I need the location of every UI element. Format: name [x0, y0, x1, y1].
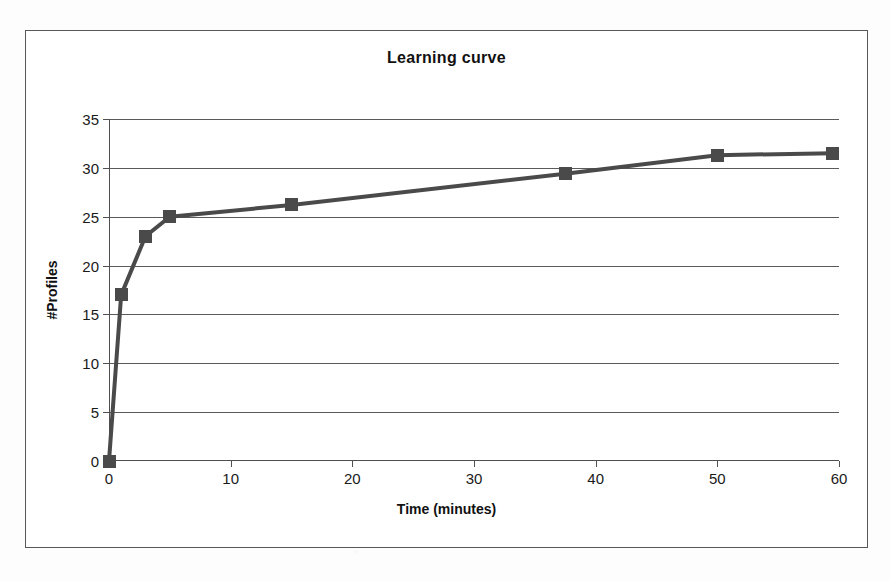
data-point-marker — [103, 455, 116, 468]
data-point-marker — [163, 210, 176, 223]
x-tick-label: 40 — [587, 470, 604, 487]
y-tick-label: 0 — [91, 453, 99, 470]
x-tick-mark — [717, 461, 718, 467]
y-tick-label: 20 — [82, 257, 99, 274]
page-root: Learning curve #Profiles Time (minutes) … — [0, 0, 890, 581]
chart-frame: Learning curve #Profiles Time (minutes) … — [25, 30, 868, 548]
x-tick-mark — [839, 461, 840, 467]
x-tick-label: 20 — [344, 470, 361, 487]
x-tick-mark — [596, 461, 597, 467]
data-point-marker — [711, 149, 724, 162]
y-tick-label: 5 — [91, 404, 99, 421]
x-tick-label: 60 — [831, 470, 848, 487]
y-tick-label: 35 — [82, 111, 99, 128]
chart-title: Learning curve — [26, 49, 867, 67]
x-tick-label: 10 — [222, 470, 239, 487]
data-point-marker — [139, 230, 152, 243]
series-line — [109, 119, 839, 461]
data-point-marker — [559, 167, 572, 180]
y-tick-label: 25 — [82, 208, 99, 225]
data-point-marker — [285, 198, 298, 211]
y-tick-label: 30 — [82, 159, 99, 176]
y-axis-label: #Profiles — [44, 260, 60, 319]
x-tick-mark — [352, 461, 353, 467]
x-tick-label: 50 — [709, 470, 726, 487]
data-point-marker — [115, 288, 128, 301]
x-tick-label: 0 — [105, 470, 113, 487]
x-tick-mark — [474, 461, 475, 467]
x-tick-label: 30 — [466, 470, 483, 487]
y-tick-label: 10 — [82, 355, 99, 372]
x-axis-label: Time (minutes) — [26, 501, 867, 517]
x-tick-mark — [231, 461, 232, 467]
plot-area: 05101520253035 0102030405060 — [109, 119, 839, 461]
y-tick-label: 15 — [82, 306, 99, 323]
data-point-marker — [826, 147, 839, 160]
